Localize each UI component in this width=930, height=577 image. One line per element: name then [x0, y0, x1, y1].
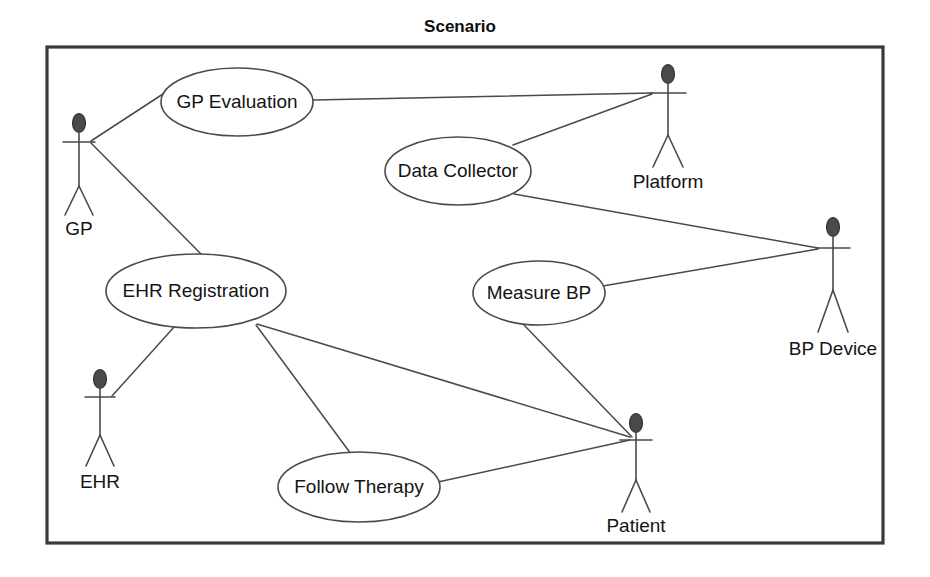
use-case-follow-therapy[interactable]: Follow Therapy [278, 452, 440, 522]
association-line-measure-bp--bp-device [603, 249, 818, 286]
actor-leg-right [833, 290, 848, 332]
actor-leg-left [65, 186, 79, 215]
actor-leg-right [668, 135, 683, 167]
use-case-label: Follow Therapy [294, 476, 424, 497]
association-line-gp-evaluation--platform [313, 93, 652, 100]
use-case-gp-evaluation[interactable]: GP Evaluation [161, 68, 313, 136]
actor-bp-device[interactable]: BP Device [789, 218, 877, 360]
association-line-gp--gp-evaluation [91, 92, 166, 141]
actor-gp[interactable]: GP [63, 114, 95, 240]
actor-head-icon [662, 65, 675, 84]
use-case-ehr-registration[interactable]: EHR Registration [106, 254, 286, 328]
use-cases-group: GP EvaluationData CollectorEHR Registrat… [106, 68, 605, 522]
association-line-follow-therapy--patient [438, 440, 630, 482]
actor-leg-left [622, 480, 636, 512]
association-line-data-collector--platform [513, 94, 652, 145]
association-line-ehr-registration--ehr [112, 326, 175, 396]
actor-leg-left [86, 435, 100, 466]
actor-label: Patient [606, 515, 666, 536]
association-line-ehr-registration--follow-therapy [256, 325, 351, 454]
actor-head-icon [630, 414, 643, 433]
use-case-label: Data Collector [398, 160, 519, 181]
use-case-label: EHR Registration [123, 280, 270, 301]
actor-label: BP Device [789, 338, 877, 359]
actor-label: EHR [80, 471, 120, 492]
actor-platform[interactable]: Platform [633, 65, 704, 193]
association-line-measure-bp--patient [524, 325, 632, 437]
actor-label: GP [65, 218, 92, 239]
diagram-canvas: Scenario GP EvaluationData CollectorEHR … [0, 0, 930, 577]
use-case-diagram: Scenario GP EvaluationData CollectorEHR … [0, 0, 930, 577]
actor-leg-left [818, 290, 833, 332]
actor-leg-right [636, 480, 650, 512]
actor-head-icon [94, 370, 107, 389]
actor-label: Platform [633, 171, 704, 192]
actor-head-icon [827, 218, 840, 237]
use-case-measure-bp[interactable]: Measure BP [473, 261, 605, 325]
association-line-gp--ehr-registration [91, 143, 203, 256]
association-line-data-collector--bp-device [514, 194, 818, 248]
actor-ehr[interactable]: EHR [80, 370, 120, 493]
actor-head-icon [73, 114, 86, 133]
actor-leg-left [653, 135, 668, 167]
association-line-ehr-registration--patient [257, 324, 630, 437]
actor-leg-right [79, 186, 93, 215]
use-case-label: Measure BP [487, 282, 592, 303]
actor-leg-right [100, 435, 114, 466]
use-case-data-collector[interactable]: Data Collector [385, 137, 531, 205]
use-case-label: GP Evaluation [176, 91, 297, 112]
diagram-title: Scenario [424, 17, 496, 36]
